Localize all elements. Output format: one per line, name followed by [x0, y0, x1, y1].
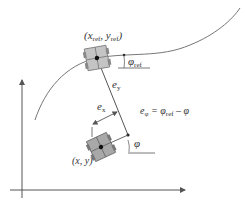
e-phi-equation: eφ = φref – φ	[140, 106, 189, 118]
e-x-label: ex	[97, 101, 105, 114]
phi-ref-tangent-point	[123, 54, 126, 57]
current-point-label: (x, y)	[72, 156, 93, 166]
diagram-canvas: (xref, yref) φref ey ex eφ = φref – φ φ …	[0, 0, 245, 205]
phi-arc	[128, 140, 129, 152]
phi-ref-arc	[124, 56, 125, 68]
reference-vehicle	[82, 45, 111, 71]
ref-point-label: (xref, yref)	[84, 30, 122, 43]
diagram-svg	[0, 0, 245, 205]
e-y-line	[97, 58, 128, 135]
phi-label: φ	[134, 138, 140, 149]
e-y-label: ey	[112, 79, 120, 92]
phi-ref-label: φref	[128, 56, 142, 69]
